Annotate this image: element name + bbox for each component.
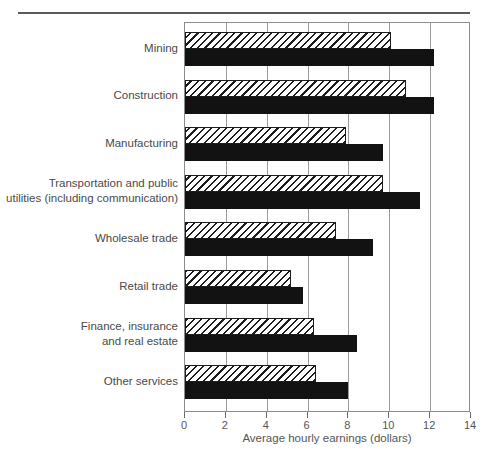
category-label: Other services [0, 374, 178, 389]
x-tick-label: 14 [464, 419, 476, 431]
bar-hatched [185, 365, 316, 382]
x-tick-label: 6 [304, 419, 310, 431]
category-label: Transportation and publicutilities (incl… [0, 176, 178, 205]
bar-solid [185, 144, 383, 161]
category-label-line: Transportation and public [0, 176, 178, 191]
x-tick-label: 8 [344, 419, 350, 431]
category-label: Mining [0, 41, 178, 56]
x-tick-label: 2 [222, 419, 228, 431]
x-tick [307, 412, 308, 418]
x-tick [429, 412, 430, 418]
x-tick-label: 0 [181, 419, 187, 431]
bar-solid [185, 287, 303, 304]
category-label-line: Construction [0, 88, 178, 103]
category-label-line: Manufacturing [0, 136, 178, 151]
bar-solid [185, 239, 373, 256]
bar-solid [185, 49, 434, 66]
bar-hatched [185, 80, 406, 97]
category-label-line: Other services [0, 374, 178, 389]
bar-solid [185, 382, 348, 399]
chart-figure: MiningConstructionManufacturingTransport… [0, 0, 489, 458]
x-axis-label: Average hourly earnings (dollars) [184, 432, 470, 444]
category-label: Construction [0, 88, 178, 103]
x-tick [225, 412, 226, 418]
bar-solid [185, 335, 357, 352]
category-label: Finance, insuranceand real estate [0, 319, 178, 348]
bar-hatched [185, 222, 336, 239]
bar-hatched [185, 318, 314, 335]
category-label-line: utilities (including communication) [0, 191, 178, 206]
x-axis: 02468101214 [184, 412, 470, 418]
category-label: Wholesale trade [0, 231, 178, 246]
plot-area [184, 22, 470, 412]
bar-hatched [185, 32, 391, 49]
x-tick [347, 412, 348, 418]
bar-hatched [185, 270, 291, 287]
category-label-line: and real estate [0, 334, 178, 349]
category-label-line: Wholesale trade [0, 231, 178, 246]
category-label: Manufacturing [0, 136, 178, 151]
x-tick-label: 10 [382, 419, 394, 431]
category-label-line: Mining [0, 41, 178, 56]
x-tick-label: 12 [423, 419, 435, 431]
x-tick [470, 412, 471, 418]
bar-solid [185, 192, 420, 209]
category-label-line: Retail trade [0, 279, 178, 294]
category-label: Retail trade [0, 279, 178, 294]
x-tick [184, 412, 185, 418]
category-label-line: Finance, insurance [0, 319, 178, 334]
bars-layer [185, 23, 469, 411]
x-tick [388, 412, 389, 418]
bar-hatched [185, 175, 383, 192]
header-rule [18, 12, 470, 14]
bar-solid [185, 97, 434, 114]
bar-hatched [185, 127, 346, 144]
x-tick [266, 412, 267, 418]
x-tick-label: 4 [263, 419, 269, 431]
